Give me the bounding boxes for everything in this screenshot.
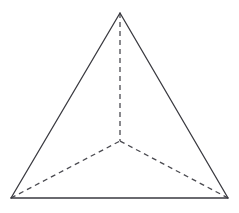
- tetrahedron-drawing: [0, 0, 239, 213]
- tetrahedron-figure: [0, 0, 239, 213]
